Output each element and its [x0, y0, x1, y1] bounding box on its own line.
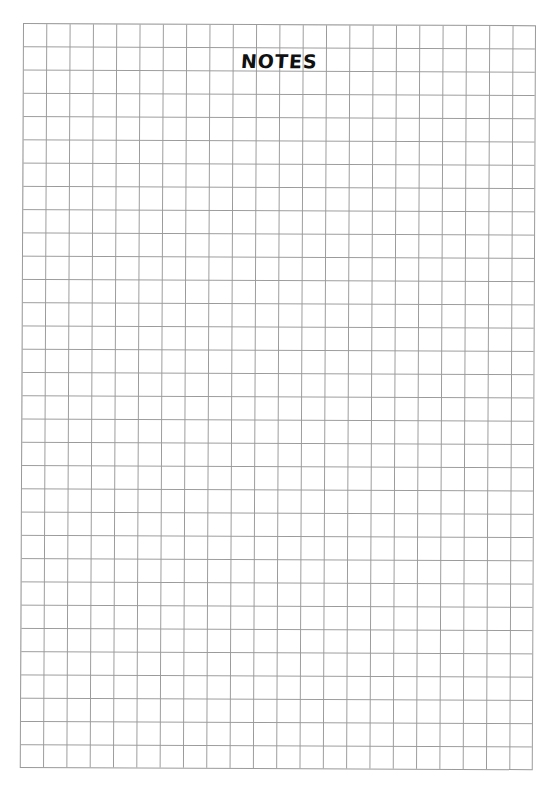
page-title: NOTES [23, 49, 536, 73]
notes-page: NOTES [0, 0, 560, 803]
graph-paper-grid: NOTES [20, 23, 536, 770]
